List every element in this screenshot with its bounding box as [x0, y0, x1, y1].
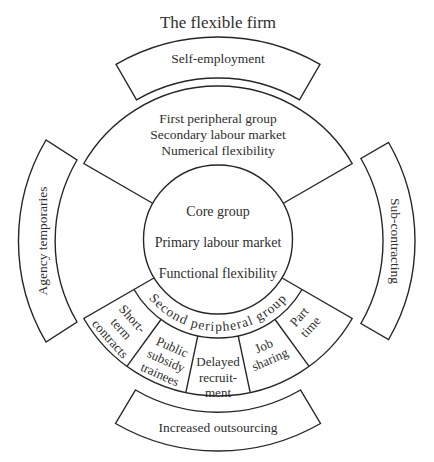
increased-outsourcing-label: Increased outsourcing: [159, 420, 278, 435]
segment-label-line: recruit-: [199, 370, 237, 385]
segment-public-subsidy-trainees: Public subsidy trainees: [139, 332, 194, 390]
self-employment-band: [116, 37, 320, 100]
outer-band-right: Sub-contracting: [361, 143, 415, 340]
agency-temporaries-label: Agency temporaries: [35, 186, 50, 295]
flexible-firm-diagram: The flexible firm Self-employment Agency…: [0, 0, 434, 462]
segment-short-term-contracts: Short- term contracts: [89, 296, 154, 361]
first-peripheral-line-2: Secondary labour market: [150, 127, 286, 142]
core-line-2: Primary labour market: [155, 235, 282, 250]
first-peripheral-line-3: Numerical flexibility: [161, 143, 275, 158]
self-employment-label: Self-employment: [171, 51, 265, 66]
sub-contracting-band: [361, 143, 415, 340]
sub-contracting-label: Sub-contracting: [388, 198, 403, 284]
segment-divider-2: [238, 336, 250, 393]
segment-label-line: Delayed: [196, 354, 240, 369]
segment-part-time: Part time: [286, 303, 324, 340]
segment-job-sharing: Job sharing: [243, 331, 291, 374]
segment-label-line: ment: [205, 385, 231, 400]
core-line-3: Functional flexibility: [159, 266, 278, 281]
core-group: Core group Primary labour market Functio…: [144, 165, 293, 314]
segment-delayed-recruitment: Delayed recruit- ment: [196, 354, 240, 400]
outer-band-left: Agency temporaries: [18, 140, 77, 342]
outer-band-top: Self-employment: [116, 37, 320, 100]
core-line-1: Core group: [186, 204, 249, 219]
first-peripheral-line-1: First peripheral group: [159, 111, 277, 126]
diagram-title: The flexible firm: [160, 13, 276, 32]
